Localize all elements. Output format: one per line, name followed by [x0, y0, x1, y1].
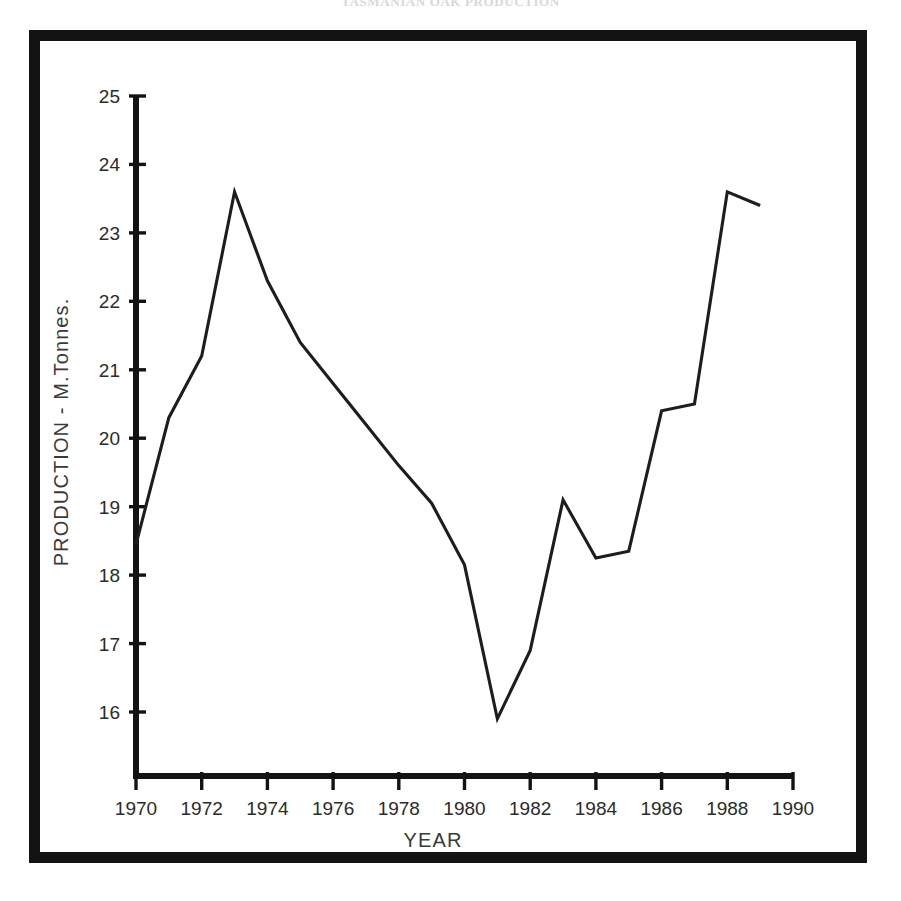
x-axis-title: YEAR [404, 829, 463, 851]
x-tick-label-1984: 1984 [575, 798, 618, 819]
x-tick-label-1988: 1988 [706, 798, 748, 819]
x-tick-label-1980: 1980 [443, 798, 485, 819]
y-axis-tick-labels: 16171819202122232425 [99, 86, 121, 723]
y-tick-label-23: 23 [99, 223, 120, 244]
y-tick-label-20: 20 [99, 428, 120, 449]
x-tick-label-1990: 1990 [772, 798, 814, 819]
y-tick-label-18: 18 [99, 565, 120, 586]
x-tick-label-1986: 1986 [640, 798, 682, 819]
data-series-group [136, 192, 760, 719]
chart-plot-area: 16171819202122232425 PRODUCTION - M.Tonn… [0, 0, 901, 901]
y-tick-label-19: 19 [99, 497, 120, 518]
y-tick-label-17: 17 [99, 634, 120, 655]
y-axis-group: 16171819202122232425 PRODUCTION - M.Tonn… [50, 86, 146, 778]
y-tick-label-21: 21 [99, 360, 120, 381]
x-axis-tick-labels: 1970197219741976197819801982198419861988… [115, 798, 814, 819]
x-axis-group: 1970197219741976197819801982198419861988… [115, 772, 814, 851]
production-line [136, 192, 760, 719]
y-tick-label-24: 24 [99, 154, 121, 175]
x-tick-label-1974: 1974 [246, 798, 289, 819]
line-chart: 16171819202122232425 PRODUCTION - M.Tonn… [0, 0, 901, 901]
y-tick-label-25: 25 [99, 86, 120, 107]
x-tick-label-1976: 1976 [312, 798, 354, 819]
x-tick-label-1970: 1970 [115, 798, 157, 819]
y-axis-title: PRODUCTION - M.Tonnes. [50, 298, 72, 567]
y-tick-label-22: 22 [99, 291, 120, 312]
x-tick-label-1978: 1978 [378, 798, 420, 819]
x-tick-label-1972: 1972 [181, 798, 223, 819]
x-tick-label-1982: 1982 [509, 798, 551, 819]
y-tick-label-16: 16 [99, 702, 120, 723]
